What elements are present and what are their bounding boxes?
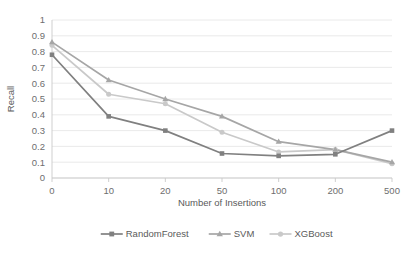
x-tick-label: 0 — [49, 185, 54, 196]
data-point-marker — [49, 39, 55, 44]
legend-label: RandomForest — [126, 228, 189, 239]
recall-vs-insertions-chart: 00.10.20.30.40.50.60.70.80.91 0102050100… — [0, 0, 412, 253]
y-tick-label: 0.9 — [32, 30, 45, 41]
data-point-marker — [106, 92, 111, 97]
x-tick-labels-group: 0102050100200500 — [49, 185, 400, 196]
x-tick-label: 500 — [384, 185, 400, 196]
data-point-marker — [220, 151, 225, 156]
y-tick-label: 0 — [40, 172, 45, 183]
x-axis-title: Number of Insertions — [178, 197, 266, 208]
data-point-marker — [278, 231, 283, 236]
chart-canvas: 00.10.20.30.40.50.60.70.80.91 0102050100… — [0, 0, 412, 253]
data-point-marker — [106, 114, 111, 119]
y-tick-label: 0.1 — [32, 157, 45, 168]
y-tick-label: 0.4 — [32, 109, 45, 120]
marker-group — [49, 39, 395, 166]
series-group — [52, 42, 392, 164]
data-point-marker — [333, 152, 338, 157]
x-tick-label: 10 — [103, 185, 114, 196]
data-point-marker — [220, 130, 225, 135]
data-point-marker — [276, 154, 281, 159]
legend-item-xgboost[interactable]: XGBoost — [270, 228, 333, 239]
legend-label: SVM — [234, 228, 255, 239]
series-line-randomforest — [52, 55, 392, 156]
y-axis-title: Recall — [5, 86, 16, 112]
y-tick-label: 0.2 — [32, 141, 45, 152]
y-tick-label: 0.7 — [32, 62, 45, 73]
legend-label: XGBoost — [295, 228, 333, 239]
x-tick-label: 50 — [217, 185, 228, 196]
y-tick-labels-group: 00.10.20.30.40.50.60.70.80.91 — [32, 14, 45, 183]
legend-group: RandomForestSVMXGBoost — [101, 228, 333, 239]
legend-item-svm[interactable]: SVM — [209, 228, 255, 239]
x-tick-label: 200 — [327, 185, 343, 196]
axis-lines-group — [52, 20, 392, 182]
data-point-marker — [390, 128, 395, 133]
y-tick-label: 0.8 — [32, 46, 45, 57]
data-point-marker — [50, 52, 55, 57]
x-tick-label: 100 — [271, 185, 287, 196]
legend-item-randomforest[interactable]: RandomForest — [101, 228, 189, 239]
y-tick-label: 0.5 — [32, 93, 45, 104]
series-line-svm — [52, 42, 392, 162]
data-point-marker — [163, 101, 168, 106]
data-point-marker — [109, 232, 114, 237]
data-point-marker — [163, 128, 168, 133]
x-tick-label: 20 — [160, 185, 171, 196]
y-tick-label: 1 — [40, 14, 45, 25]
y-tick-label: 0.3 — [32, 125, 45, 136]
y-tick-label: 0.6 — [32, 78, 45, 89]
